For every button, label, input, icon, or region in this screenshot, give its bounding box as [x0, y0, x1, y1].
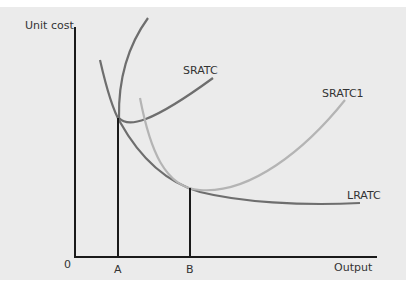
sratc1-curve — [140, 98, 345, 190]
x-axis-label: Output — [334, 262, 372, 273]
marker-label-a: A — [114, 264, 122, 275]
sratc-label: SRATC — [183, 65, 218, 76]
y-axis-label: Unit cost — [25, 20, 74, 31]
origin-label: 0 — [64, 259, 71, 270]
cost-curve-diagram — [0, 0, 406, 289]
lratc-curve — [100, 60, 360, 204]
lratc-label: LRATC — [347, 190, 381, 201]
marker-label-b: B — [186, 264, 194, 275]
sratc1-label: SRATC1 — [322, 88, 364, 99]
